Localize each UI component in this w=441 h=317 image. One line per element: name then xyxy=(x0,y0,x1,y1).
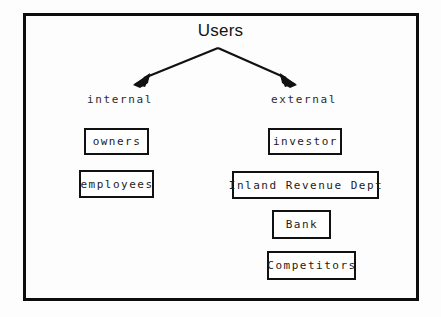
diagram-root-title: Users xyxy=(0,21,441,41)
node-label-owners: owners xyxy=(92,136,142,147)
node-inland-revenue-dept: Inland Revenue Dept xyxy=(232,171,379,199)
node-label-investor: investor xyxy=(272,136,338,147)
node-investor: investor xyxy=(268,128,342,155)
node-owners: owners xyxy=(84,128,149,155)
node-bank: Bank xyxy=(272,210,331,239)
node-label-bank: Bank xyxy=(285,219,319,230)
diagram-canvas: Users internal external owners employees… xyxy=(0,0,441,317)
branch-label-external: external xyxy=(262,93,346,106)
node-label-employees: employees xyxy=(79,179,153,190)
node-competitors: Competitors xyxy=(267,251,356,280)
node-label-inland-revenue-dept: Inland Revenue Dept xyxy=(228,180,383,191)
node-employees: employees xyxy=(79,170,154,198)
branch-label-internal: internal xyxy=(78,93,162,106)
diagram-outer-frame xyxy=(23,13,419,301)
node-label-competitors: Competitors xyxy=(266,260,356,271)
